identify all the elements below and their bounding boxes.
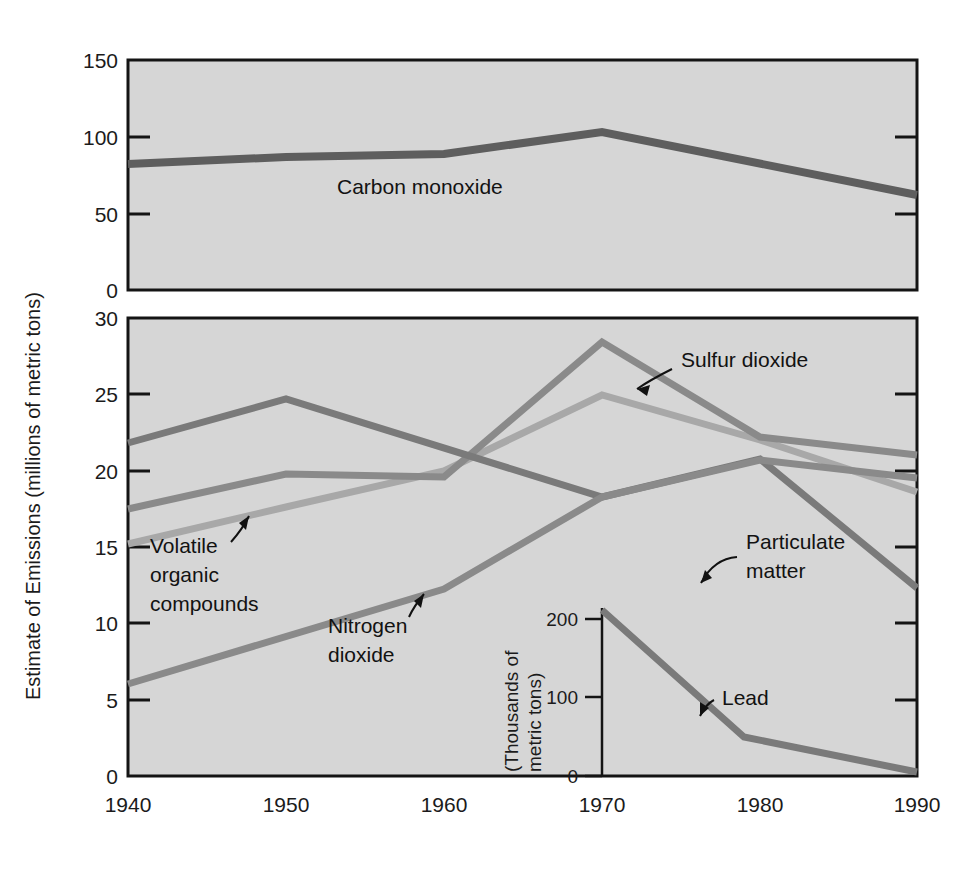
xtick-label-1960: 1960: [421, 793, 468, 816]
series-label-volatile-line1: Volatile: [150, 534, 218, 557]
y-axis-title: Estimate of Emissions (millions of metri…: [22, 292, 44, 700]
series-label-carbon-monoxide: Carbon monoxide: [337, 175, 503, 198]
bottom-ytick-label-25: 25: [95, 383, 118, 406]
bottom-ytick-label-0: 0: [106, 765, 118, 788]
series-label-sulfur-dioxide: Sulfur dioxide: [681, 348, 808, 371]
chart-figure: 150 100 50 0 Carbon monoxide 30: [0, 0, 976, 870]
xtick-label-1980: 1980: [737, 793, 784, 816]
series-label-particulate-matter-line2: matter: [746, 559, 806, 582]
x-axis: 1940 1950 1960 1970 1980 1990: [105, 793, 941, 816]
bottom-ytick-label-20: 20: [95, 460, 118, 483]
bottom-ytick-label-30: 30: [95, 307, 118, 330]
series-label-particulate-matter-line1: Particulate: [746, 530, 845, 553]
top-panel: 150 100 50 0 Carbon monoxide: [83, 49, 917, 302]
xtick-label-1950: 1950: [263, 793, 310, 816]
top-ytick-label-50: 50: [95, 203, 118, 226]
bottom-ytick-label-10: 10: [95, 612, 118, 635]
inset-axis-title-line2: metric tons): [524, 673, 545, 772]
xtick-label-1970: 1970: [579, 793, 626, 816]
series-label-lead: Lead: [722, 686, 769, 709]
top-ytick-label-150: 150: [83, 49, 118, 72]
inset-ytick-label-0: 0: [567, 766, 578, 787]
series-label-nitrogen-line2: dioxide: [328, 643, 395, 666]
series-label-volatile-line3: compounds: [150, 592, 259, 615]
inset-axis-title-line1: (Thousands of: [501, 650, 522, 772]
xtick-label-1940: 1940: [105, 793, 152, 816]
xtick-label-1990: 1990: [894, 793, 941, 816]
inset-ytick-label-100: 100: [546, 687, 578, 708]
bottom-panel: 30 25 20 15 10 5 0 Sulfur dioxide Partic…: [95, 307, 917, 788]
bottom-ytick-label-5: 5: [106, 689, 118, 712]
top-ytick-label-100: 100: [83, 126, 118, 149]
bottom-ytick-label-15: 15: [95, 536, 118, 559]
inset-ytick-label-200: 200: [546, 609, 578, 630]
series-label-volatile-line2: organic: [150, 563, 219, 586]
series-label-nitrogen-line1: Nitrogen: [328, 614, 407, 637]
emissions-chart-svg: 150 100 50 0 Carbon monoxide 30: [0, 0, 976, 870]
top-ytick-label-0: 0: [106, 279, 118, 302]
